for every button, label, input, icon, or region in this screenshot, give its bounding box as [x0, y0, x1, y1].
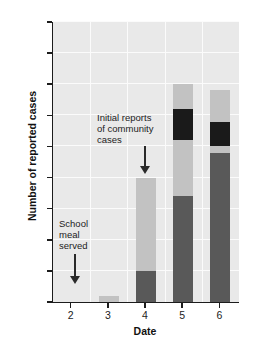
- y-axis-label: Number of reported cases: [26, 61, 38, 251]
- x-tick-label: 5: [167, 310, 197, 321]
- annotation-line: meal: [59, 229, 88, 240]
- vertical-gridline: [90, 22, 91, 302]
- bar-stack: [136, 178, 156, 302]
- x-tick-label: 3: [93, 310, 123, 321]
- bar-segment: [173, 84, 193, 109]
- bar-segment: [210, 90, 230, 121]
- arrow-head: [70, 276, 80, 284]
- annotation-line: School: [59, 218, 88, 229]
- annotation-arrow-community-cases: [137, 146, 153, 176]
- vertical-gridline: [165, 22, 166, 302]
- x-tick-mark: [70, 303, 72, 308]
- bar-segment: [173, 140, 193, 196]
- vertical-gridline: [202, 22, 203, 302]
- bar-segment: [136, 178, 156, 271]
- annotation-line: served: [59, 240, 88, 251]
- annotation-line: Initial reports: [97, 112, 154, 123]
- x-axis-label: Date: [52, 325, 238, 337]
- arrow-shaft: [144, 146, 147, 168]
- bar-segment: [136, 271, 156, 302]
- x-tick-label: 2: [56, 310, 86, 321]
- epidemic-curve-chart: Number of reported cases 051015202530354…: [0, 0, 256, 340]
- bar-segment: [173, 109, 193, 140]
- gridline: [53, 83, 239, 84]
- annotation-initial-community-reports: Initial reports of community cases: [97, 112, 154, 146]
- gridline: [53, 52, 239, 53]
- annotation-line: of community: [97, 123, 154, 134]
- gridline: [53, 21, 239, 22]
- bar-stack: [99, 296, 119, 302]
- plot-area: School meal served Initial reports of co…: [52, 22, 239, 303]
- annotation-school-meal-served: School meal served: [59, 218, 88, 252]
- x-tick-label: 4: [130, 310, 160, 321]
- bar-stack: [173, 84, 193, 302]
- bar-segment: [210, 122, 230, 147]
- annotation-line: cases: [97, 134, 154, 145]
- bar-segment: [173, 196, 193, 302]
- arrow-head: [140, 166, 150, 174]
- vertical-gridline: [127, 22, 128, 302]
- x-tick-mark: [219, 303, 221, 308]
- x-tick-label: 6: [204, 310, 234, 321]
- bar-stack: [210, 90, 230, 302]
- annotation-arrow-school-meal: [67, 254, 83, 284]
- arrow-shaft: [74, 254, 77, 278]
- bar-segment: [210, 146, 230, 152]
- x-tick-mark: [107, 303, 109, 308]
- bar-segment: [99, 296, 119, 302]
- x-tick-mark: [181, 303, 183, 308]
- bar-segment: [210, 153, 230, 302]
- x-tick-mark: [144, 303, 146, 308]
